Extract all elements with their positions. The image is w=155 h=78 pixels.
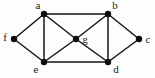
graph-edge-g-d [76, 39, 108, 62]
graph-edge-a-g [44, 14, 76, 39]
graph-figure: abcdefg [0, 0, 155, 78]
graph-canvas: abcdefg [0, 0, 155, 78]
graph-vertex-label-d: d [113, 63, 119, 75]
graph-vertex-label-f: f [3, 31, 7, 43]
graph-vertex-e [41, 59, 47, 65]
vertices-layer [11, 11, 142, 65]
graph-vertex-label-b: b [112, 0, 118, 11]
graph-edge-e-g [44, 39, 76, 62]
graph-edge-c-d [108, 39, 139, 62]
graph-edge-f-e [14, 39, 44, 62]
graph-vertex-a [41, 11, 47, 17]
graph-vertex-d [105, 59, 111, 65]
graph-vertex-g [73, 36, 79, 42]
graph-edge-b-c [108, 14, 139, 39]
graph-vertex-f [11, 36, 17, 42]
graph-edge-g-b [76, 14, 108, 39]
graph-vertex-label-e: e [34, 63, 39, 75]
graph-vertex-label-g: g [82, 33, 88, 45]
graph-vertex-b [105, 11, 111, 17]
graph-vertex-label-a: a [36, 0, 41, 11]
graph-vertex-label-c: c [146, 33, 151, 45]
graph-edge-a-f [14, 14, 44, 39]
graph-vertex-c [136, 36, 142, 42]
